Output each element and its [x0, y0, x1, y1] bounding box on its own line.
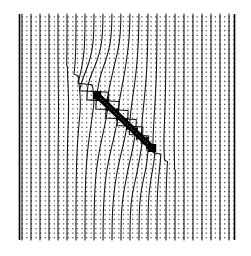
- streamline-figure: [0, 0, 251, 256]
- figure-root: Streamline deflection around an inclined…: [0, 0, 251, 256]
- inclusion-cap-end: [148, 144, 156, 152]
- streamline: [58, 14, 59, 240]
- inclusion-cap-start: [93, 91, 101, 99]
- figure-background: [0, 0, 251, 256]
